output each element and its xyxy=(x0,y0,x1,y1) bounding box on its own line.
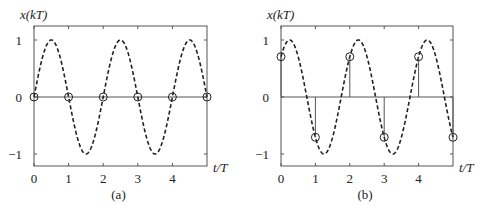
y-tick-label: 1 xyxy=(263,33,270,48)
y-axis-label: x(kT) xyxy=(19,7,47,22)
x-tick-label: 1 xyxy=(65,171,72,186)
y-tick-label: −1 xyxy=(8,147,22,162)
y-tick-label: 0 xyxy=(263,90,270,105)
y-tick-label: −1 xyxy=(255,147,269,162)
x-tick-label: 3 xyxy=(381,171,388,186)
x-tick-label: 0 xyxy=(31,171,38,186)
x-axis-label: t/T xyxy=(213,160,228,175)
y-tick-label: 0 xyxy=(16,90,23,105)
panel-caption: (b) xyxy=(357,187,372,202)
y-axis-label: x(kT) xyxy=(266,7,294,22)
x-tick-label: 0 xyxy=(278,171,285,186)
x-tick-label: 2 xyxy=(100,171,107,186)
x-axis-label: t/T xyxy=(459,160,474,175)
plot-frame xyxy=(34,26,207,166)
x-tick-label: 3 xyxy=(135,171,142,186)
panel-a: 01234−101x(kT)t/T(a) xyxy=(8,7,228,202)
y-tick-label: 1 xyxy=(16,33,23,48)
panel-caption: (a) xyxy=(111,187,125,202)
figure: 01234−101x(kT)t/T(a) 01234−101x(kT)t/T(b… xyxy=(0,0,492,206)
x-tick-label: 4 xyxy=(169,171,176,186)
x-tick-label: 1 xyxy=(312,171,319,186)
x-tick-label: 4 xyxy=(415,171,422,186)
panel-b: 01234−101x(kT)t/T(b) xyxy=(255,7,474,202)
x-tick-label: 2 xyxy=(347,171,354,186)
